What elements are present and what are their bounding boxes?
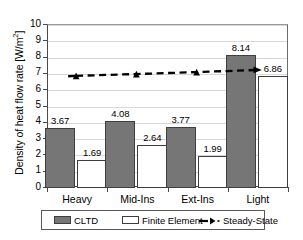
plot-area: 3.671.694.082.643.771.998.146.86 bbox=[47, 24, 288, 187]
bar-finite-element bbox=[77, 160, 107, 188]
bar-value-label-cltd: 8.14 bbox=[220, 43, 262, 53]
x-axis-category-label: Ext-Ins bbox=[168, 194, 228, 205]
y-axis-tick-label: 6 bbox=[19, 84, 41, 94]
legend-item-cltd: CLTD bbox=[54, 211, 98, 229]
bar-value-label-cltd: 3.67 bbox=[39, 116, 81, 126]
gridline bbox=[48, 25, 287, 26]
legend-label-finite-element: Finite Element bbox=[142, 215, 203, 226]
bar-cltd bbox=[226, 55, 256, 188]
gridline bbox=[48, 41, 287, 42]
y-axis-tick-label: 8 bbox=[19, 51, 41, 61]
y-axis-tick-label: 7 bbox=[19, 67, 41, 77]
legend-swatch-finite-element-icon bbox=[122, 216, 139, 224]
y-axis-tick-label: 10 bbox=[19, 19, 41, 29]
x-axis-tick-mark bbox=[47, 187, 48, 192]
legend-item-finite-element: Finite Element bbox=[122, 211, 203, 229]
y-axis-tick-label: 4 bbox=[19, 116, 41, 126]
legend-swatch-cltd-icon bbox=[54, 216, 71, 224]
bar-finite-element bbox=[198, 156, 228, 188]
bar-value-label-cltd: 4.08 bbox=[99, 109, 141, 119]
y-axis-tick-label: 2 bbox=[19, 149, 41, 159]
bar-cltd bbox=[166, 127, 196, 188]
legend-label-steady-state: Steady-State bbox=[223, 215, 278, 226]
y-axis-tick-label: 5 bbox=[19, 100, 41, 110]
x-axis-tick-mark bbox=[228, 187, 229, 192]
chart-figure: Density of heat flow rate [W/m2] 0123456… bbox=[0, 0, 303, 240]
x-axis-category-label: Light bbox=[228, 194, 288, 205]
bar-cltd bbox=[105, 121, 135, 188]
legend-swatch-steady-state-icon bbox=[199, 216, 221, 225]
x-axis-category-label: Heavy bbox=[47, 194, 107, 205]
y-axis-title-bracket: ] bbox=[13, 31, 25, 34]
bar-finite-element bbox=[258, 76, 288, 188]
bar-value-label-finite-element: 6.86 bbox=[252, 64, 294, 74]
y-axis-tick-label: 0 bbox=[19, 182, 41, 192]
legend-label-cltd: CLTD bbox=[74, 215, 98, 226]
x-axis-tick-mark bbox=[288, 187, 289, 192]
chart-legend: CLTD Finite Element Steady-State bbox=[41, 210, 265, 230]
y-axis-tick-label: 9 bbox=[19, 35, 41, 45]
y-axis-tick-label: 3 bbox=[19, 133, 41, 143]
x-axis-tick-mark bbox=[107, 187, 108, 192]
x-axis-tick-mark bbox=[168, 187, 169, 192]
bar-finite-element bbox=[137, 145, 167, 188]
x-axis-category-label: Mid-Ins bbox=[107, 194, 167, 205]
legend-item-steady-state: Steady-State bbox=[199, 211, 278, 229]
y-axis-tick-label: 1 bbox=[19, 165, 41, 175]
bar-value-label-cltd: 3.77 bbox=[160, 115, 202, 125]
